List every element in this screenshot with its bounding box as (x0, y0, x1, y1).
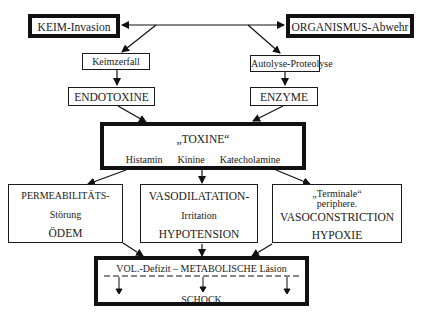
vasoconstriction-sub: periphere. (273, 199, 401, 209)
vasodilatation-title: VASODILATATION- (141, 191, 257, 203)
toxine-item-kinine: Kinine (177, 155, 204, 165)
keimzerfall-box: Keimzerfall (82, 53, 150, 70)
vasodilatation-result: HYPOTENSION (141, 229, 257, 241)
vasodilatation-box: VASODILATATION- Irritation HYPOTENSION (140, 184, 258, 243)
vasoconstriction-box: „Terminale“ periphere. VASOCONSTRICTION … (272, 184, 402, 243)
permeability-title: PERMEABILITÄTS- (9, 191, 122, 201)
permeability-box: PERMEABILITÄTS- Störung ÖDEM (8, 184, 123, 243)
organismus-abwehr-box: ORGANISMUS-Abwehr (286, 14, 414, 38)
toxine-box: „TOXINE“ Histamin Kinine Katecholamine (100, 122, 306, 170)
permeability-result: ÖDEM (9, 228, 122, 240)
keimzerfall-label: Keimzerfall (83, 57, 149, 67)
organismus-abwehr-label: ORGANISMUS-Abwehr (290, 22, 410, 34)
autolyse-proteolyse-label: Autolyse-Proteolyse (251, 59, 319, 69)
enzyme-box: ENZYME (250, 87, 318, 106)
vasodilatation-sub: Irritation (141, 211, 257, 221)
enzyme-label: ENZYME (251, 92, 317, 104)
keim-invasion-box: KEIM-Invasion (28, 14, 120, 38)
schock-dashed-arrows (98, 275, 305, 297)
endotoxine-box: ENDOTOXINE (68, 87, 155, 106)
vasoconstriction-mid: VASOCONSTRICTION (273, 212, 401, 224)
schock-box: VOL.-Defizit – METABOLISCHE Läsion SCHOC… (94, 256, 309, 306)
keim-invasion-label: KEIM-Invasion (32, 22, 116, 34)
schock-header: VOL.-Defizit – METABOLISCHE Läsion (98, 264, 305, 274)
toxine-item-katecholamine: Katecholamine (220, 155, 281, 165)
autolyse-proteolyse-box: Autolyse-Proteolyse (250, 55, 320, 72)
permeability-sub: Störung (9, 210, 122, 220)
toxine-item-histamin: Histamin (126, 155, 163, 165)
toxine-title: „TOXINE“ (104, 134, 302, 146)
vasoconstriction-result: HYPOXIE (273, 230, 401, 242)
endotoxine-label: ENDOTOXINE (69, 92, 154, 104)
